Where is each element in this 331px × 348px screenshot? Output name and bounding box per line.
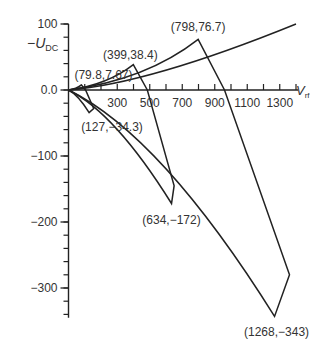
annotation-label: (798,76.7) bbox=[171, 20, 226, 34]
annotations: (79.8,7.67)(127,−34.3)(399,38.4)(634,−17… bbox=[74, 20, 309, 339]
y-tick-label: 100 bbox=[37, 17, 57, 31]
annotation-label: (399,38.4) bbox=[103, 48, 158, 62]
chart: 1000.0−100−200−30030050070090011001300 (… bbox=[0, 0, 331, 348]
x-tick-label: 1100 bbox=[234, 96, 260, 110]
annotation-label: (1268,−343) bbox=[244, 325, 309, 339]
annotation-label: (79.8,7.67) bbox=[74, 68, 132, 82]
x-tick-label: 300 bbox=[107, 96, 127, 110]
chart-svg: 1000.0−100−200−30030050070090011001300 (… bbox=[0, 0, 331, 348]
x-tick-label: 900 bbox=[205, 96, 225, 110]
x-tick-label: 700 bbox=[172, 96, 192, 110]
y-tick-label: 0.0 bbox=[41, 83, 58, 97]
y-axis-label: −UDC bbox=[27, 35, 59, 53]
annotation-label: (127,−34.3) bbox=[81, 120, 143, 134]
annotation-label: (634,−172) bbox=[142, 213, 200, 227]
y-tick-label: −100 bbox=[30, 149, 57, 163]
x-axis-label: Vrf bbox=[296, 83, 310, 100]
x-tick-label: 1300 bbox=[266, 96, 293, 110]
y-tick-label: −200 bbox=[30, 215, 57, 229]
y-tick-label: −300 bbox=[30, 281, 57, 295]
